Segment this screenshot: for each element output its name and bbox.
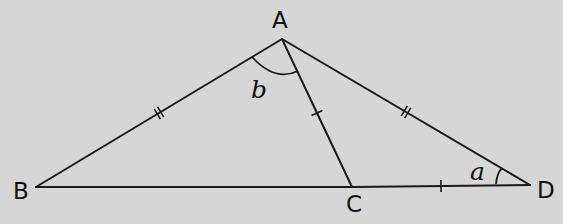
vertex-label-b: B [13, 178, 29, 204]
angle-arc-a [496, 168, 502, 184]
angle-label-b: b [251, 75, 267, 104]
vertex-label-d: D [537, 177, 555, 203]
segments [36, 39, 530, 187]
angle-label-a: a [470, 157, 485, 186]
segment-ab [36, 39, 282, 187]
vertex-label-c: C [346, 191, 362, 217]
triangle-diagram: A B C D b a [0, 0, 563, 224]
equality-marks [154, 106, 441, 192]
vertex-label-a: A [272, 7, 288, 33]
